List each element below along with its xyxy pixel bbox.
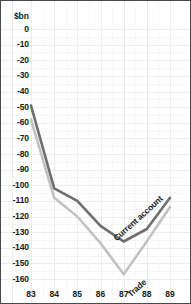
series-line-current-account	[31, 106, 170, 242]
series-line-trade	[31, 120, 170, 275]
chart-plot-area	[1, 1, 191, 304]
chart-container: $bn 0-10-20-30-40-50-60-70-80-90-100-110…	[0, 0, 191, 304]
